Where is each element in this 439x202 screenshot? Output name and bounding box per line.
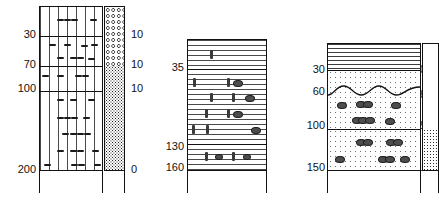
symbol-dash (70, 150, 77, 152)
symbol-dash (70, 57, 77, 59)
bed-boundary-1-100 (40, 91, 102, 92)
erosion-surface-3 (328, 84, 420, 98)
bed-boundary-3-30 (328, 70, 420, 71)
symbol-bar (227, 109, 230, 118)
value-label-1-a: 10 (131, 29, 151, 40)
symbol-dash (88, 99, 95, 101)
symbol-ellipse (363, 139, 373, 146)
log-column-3: 30 60 100 150 0 8 2 1 (290, 0, 436, 202)
symbol-dash (57, 57, 64, 59)
bed-3-a (328, 44, 420, 70)
side-1-bot (105, 66, 124, 171)
symbol-dash (71, 164, 78, 166)
symbol-dash (90, 19, 97, 21)
symbol-bar (210, 50, 213, 59)
log-3-leg-left (327, 171, 328, 193)
symbol-dash (78, 164, 85, 166)
bed-boundary-3-100 (328, 129, 420, 130)
log-2-leg-left (187, 171, 188, 193)
symbol-dash (62, 133, 69, 135)
bed-2-c (188, 144, 266, 171)
symbol-bar (232, 93, 235, 102)
side-1-top (105, 7, 124, 66)
symbol-dash (57, 75, 64, 77)
log-2-leg-right (266, 171, 267, 193)
bed-3-c (328, 129, 420, 171)
depth-label-3-60: 60 (295, 86, 325, 97)
symbol-ellipse (393, 139, 403, 146)
symbol-ellipse (337, 102, 347, 109)
symbol-bar (232, 152, 235, 161)
depth-label-3-100: 100 (290, 120, 325, 131)
symbol-bar (210, 93, 213, 102)
symbol-ellipse (233, 111, 243, 118)
symbol-dash (81, 45, 88, 47)
log-column-1: 30 70 100 200 10 10 10 0 (0, 0, 150, 202)
bed-1-a (40, 7, 102, 36)
symbol-ellipse (335, 156, 345, 163)
depth-label-2-130: 130 (150, 141, 184, 152)
bed-1-b (40, 36, 102, 66)
symbol-dash (94, 164, 101, 166)
texture-column-3 (422, 43, 439, 171)
symbol-dash (92, 150, 99, 152)
bed-1-c (40, 66, 102, 91)
symbol-dash (49, 44, 56, 46)
symbol-ellipse (400, 156, 410, 163)
symbol-bar (205, 152, 208, 161)
symbol-dash (82, 75, 89, 77)
symbol-dash (64, 19, 71, 21)
depth-label-3-30: 30 (295, 64, 325, 75)
symbol-dash (70, 133, 77, 135)
bed-boundary-1-30 (40, 36, 102, 37)
symbol-dash (91, 44, 98, 46)
symbol-dash (83, 117, 90, 119)
log-1-leg-right (124, 171, 125, 193)
bed-boundary-2-130 (188, 144, 266, 145)
symbol-ellipse (363, 101, 373, 108)
bed-boundary-1-70 (40, 66, 102, 67)
symbol-dash (88, 58, 95, 60)
symbol-dash (71, 19, 78, 21)
depth-label-2-35: 35 (154, 62, 184, 73)
symbol-ellipse (251, 127, 261, 134)
value-label-1-b: 10 (131, 59, 151, 70)
symbol-ellipse (391, 102, 401, 109)
texture-column-1 (104, 6, 125, 171)
symbol-ellipse (233, 80, 243, 87)
symbol-bar (227, 78, 230, 87)
symbol-dash (77, 133, 84, 135)
symbol-ellipse (245, 95, 255, 102)
log-1-leg-left (39, 171, 40, 193)
symbol-dash (64, 44, 71, 46)
depth-label-1-30: 30 (6, 29, 36, 40)
value-label-1-c: 10 (131, 83, 151, 94)
depth-label-3-150: 150 (290, 162, 325, 173)
bed-boundary-2-35 (188, 69, 266, 70)
log-column-2: 35 130 160 (150, 0, 290, 202)
side-3-bot (423, 129, 438, 171)
symbol-dash (57, 99, 64, 101)
symbol-dash (77, 57, 84, 59)
symbol-bar (205, 109, 208, 118)
symbol-dash (57, 19, 64, 21)
symbol-dash (44, 164, 51, 166)
symbol-dash (77, 150, 84, 152)
symbol-ellipse (385, 156, 395, 163)
value-label-1-d: 0 (131, 164, 151, 175)
symbol-bar (206, 125, 209, 134)
depth-label-2-160: 160 (150, 162, 184, 173)
symbol-dash (57, 117, 64, 119)
symbol-dash (71, 117, 78, 119)
symbol-dash (70, 99, 77, 101)
lithology-column-2 (187, 39, 267, 171)
symbol-dash (75, 75, 82, 77)
depth-label-1-70: 70 (6, 59, 36, 70)
depth-label-1-100: 100 (1, 83, 36, 94)
bed-1-d (40, 91, 102, 171)
symbol-ellipse (365, 117, 375, 124)
symbol-ellipse (385, 118, 395, 125)
log-3-leg-mid (420, 171, 421, 193)
bed-2-a (188, 40, 266, 69)
